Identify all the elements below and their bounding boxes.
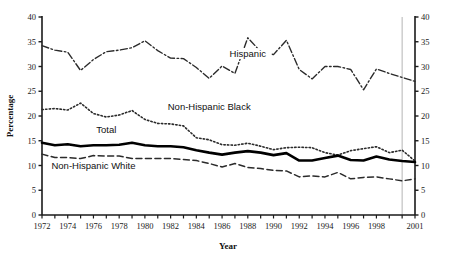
x-tick-label: 1972 <box>34 221 51 231</box>
x-tick-label: 1996 <box>342 221 359 231</box>
chart-container: 0510152025303540 0510152025303540 197219… <box>0 0 451 260</box>
x-tick-label: 1980 <box>136 221 153 231</box>
y-tick-label-left: 35 <box>28 37 37 47</box>
y-tick-label-left: 5 <box>32 185 36 195</box>
series-label-non-hispanic-white: Non-Hispanic White <box>51 160 135 171</box>
y-tick-label-left: 0 <box>32 210 36 220</box>
y-axis-title: Percentage <box>5 95 15 137</box>
y-tick-label-left: 40 <box>28 12 37 22</box>
x-tick-label: 1998 <box>368 221 385 231</box>
y-tick-label-right: 40 <box>421 12 430 22</box>
y-tick-label-right: 0 <box>421 210 425 220</box>
x-tick-label: 1978 <box>111 221 128 231</box>
x-tick-label: 1986 <box>214 221 231 231</box>
series-label-hispanic: Hispanic <box>230 48 267 59</box>
y-tick-label-left: 10 <box>28 161 37 171</box>
x-tick-label: 1976 <box>85 221 102 231</box>
y-tick-label-left: 20 <box>28 111 37 121</box>
x-tick-label: 1992 <box>291 221 308 231</box>
x-axis-title: Year <box>219 241 237 251</box>
x-tick-label: 1988 <box>239 221 256 231</box>
x-tick-label: 1984 <box>188 221 206 231</box>
y-tick-label-right: 5 <box>421 185 425 195</box>
x-tick-label: 1990 <box>265 221 282 231</box>
y-tick-label-left: 25 <box>28 86 37 96</box>
x-tick-label: 1974 <box>59 221 77 231</box>
y-tick-label-right: 15 <box>421 136 430 146</box>
x-tick-label: 1982 <box>162 221 179 231</box>
y-tick-label-left: 15 <box>28 136 37 146</box>
y-tick-label-right: 10 <box>421 161 430 171</box>
y-tick-label-right: 35 <box>421 37 430 47</box>
y-tick-label-right: 25 <box>421 86 430 96</box>
x-tick-label: 2001 <box>407 221 424 231</box>
x-tick-label: 1994 <box>316 221 334 231</box>
y-tick-label-right: 20 <box>421 111 430 121</box>
y-tick-label-left: 30 <box>28 62 37 72</box>
series-label-total: Total <box>96 124 116 135</box>
y-tick-label-right: 30 <box>421 62 430 72</box>
series-label-non-hispanic-black: Non-Hispanic Black <box>168 101 251 112</box>
dropout-rate-line-chart: 0510152025303540 0510152025303540 197219… <box>0 0 451 260</box>
